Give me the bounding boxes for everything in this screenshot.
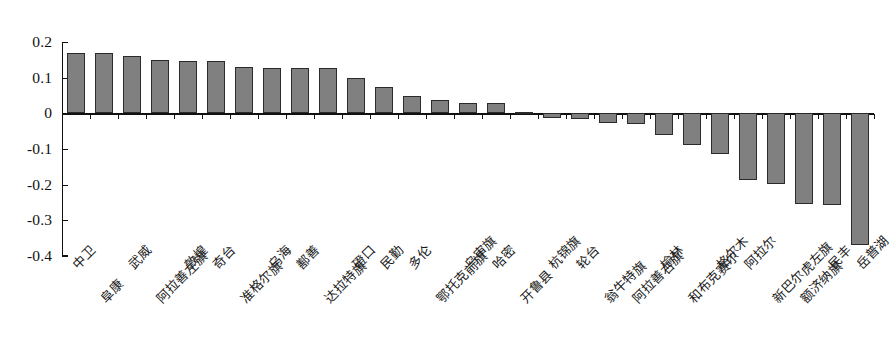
bar — [375, 87, 392, 113]
bar — [487, 103, 504, 113]
bar — [851, 113, 868, 245]
bar — [95, 53, 112, 113]
bar — [459, 103, 476, 113]
bar — [515, 112, 532, 114]
y-axis-tick-label: 0.2 — [0, 34, 52, 50]
bar — [711, 113, 728, 154]
bar — [263, 68, 280, 114]
y-axis-tick-label: 0 — [0, 105, 52, 121]
bar — [627, 113, 644, 124]
bar — [291, 68, 308, 114]
y-axis-tick-label: -0.3 — [0, 212, 52, 228]
bar — [123, 56, 140, 113]
y-axis-tick — [62, 256, 68, 257]
y-axis-tick-label-wrap: -0.4 — [0, 256, 56, 257]
y-axis-tick-label: -0.2 — [0, 177, 52, 193]
x-axis-category-label: 准格尔旗 — [238, 259, 285, 306]
bar — [599, 113, 616, 123]
y-axis-tick-label-wrap: 0 — [0, 113, 56, 114]
bar — [739, 113, 756, 180]
bar — [767, 113, 784, 184]
bar — [543, 113, 560, 117]
bar-series — [62, 42, 874, 256]
y-axis-tick-label-wrap: -0.3 — [0, 220, 56, 221]
bar — [207, 61, 224, 113]
y-axis-tick-label-wrap: -0.2 — [0, 185, 56, 186]
y-axis-tick-label-wrap: 0.2 — [0, 42, 56, 43]
bar — [431, 100, 448, 113]
x-axis-category-label: 阿拉善右旗 — [630, 249, 686, 305]
x-axis-category-label: 鄂托克前旗 — [434, 249, 490, 305]
bar — [179, 61, 196, 113]
bar — [571, 113, 588, 118]
y-axis-tick-label: -0.4 — [0, 248, 52, 264]
bar — [151, 60, 168, 114]
y-axis-tick-label-wrap: -0.1 — [0, 149, 56, 150]
x-axis-category-label: 开鲁县 — [518, 268, 555, 305]
bar — [67, 53, 84, 114]
y-axis-tick-label: -0.1 — [0, 141, 52, 157]
bar — [683, 113, 700, 145]
bar — [795, 113, 812, 204]
x-axis-tick — [874, 114, 875, 119]
bar — [319, 68, 336, 113]
x-axis-category-label: 翁牛特旗 — [602, 259, 649, 306]
y-axis-tick-label: 0.1 — [0, 70, 52, 86]
bar — [655, 113, 672, 135]
x-axis-category-label: 阿拉善左旗 — [154, 249, 210, 305]
x-axis-category-label: 和布克赛尔 — [686, 249, 742, 305]
bar — [347, 78, 364, 113]
bar — [235, 67, 252, 114]
bar — [823, 113, 840, 205]
x-axis-category-label: 阜康 — [98, 277, 126, 305]
x-axis-category-label: 额济纳旗 — [798, 259, 845, 306]
bar — [403, 96, 420, 114]
x-axis-category-label: 达拉特旗 — [322, 259, 369, 306]
y-axis-tick-label-wrap: 0.1 — [0, 78, 56, 79]
